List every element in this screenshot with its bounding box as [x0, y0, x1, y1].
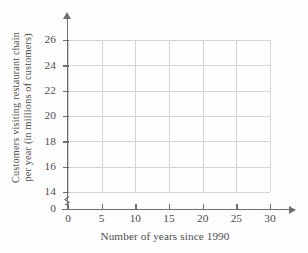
y-axis-tick — [63, 65, 69, 66]
y-axis-tick — [63, 116, 69, 117]
y-axis-origin-label: 0 — [34, 203, 56, 214]
gridline-vertical — [169, 40, 170, 192]
gridline-vertical — [236, 40, 237, 192]
gridline-vertical — [270, 40, 271, 192]
x-axis-tick-label: 15 — [157, 213, 181, 224]
y-axis-tick-label: 24 — [34, 60, 56, 71]
y-axis-tick-label: 22 — [34, 85, 56, 96]
x-axis-tick — [68, 204, 69, 210]
arrow-up-icon — [63, 12, 71, 19]
y-axis-tick — [63, 192, 69, 193]
y-axis-tick-label: 20 — [34, 110, 56, 121]
y-axis-tick-label: 18 — [34, 136, 56, 147]
y-axis-title-line-1: Customers visiting restaurant chain — [11, 32, 23, 183]
x-axis-title: Number of years since 1990 — [40, 230, 290, 242]
y-axis-tick-label: 16 — [34, 161, 56, 172]
x-axis-tick — [236, 204, 237, 210]
x-axis-tick — [169, 204, 170, 210]
x-axis-tick — [203, 204, 204, 210]
plot-bottom-edge — [68, 192, 270, 193]
x-axis-tick — [102, 204, 103, 210]
y-axis-line — [67, 18, 68, 210]
y-axis-title: Customers visiting restaurant chain per … — [0, 0, 46, 215]
x-axis-tick-label: 5 — [90, 213, 114, 224]
y-axis-tick-label: 26 — [34, 34, 56, 45]
y-axis-tick — [63, 167, 69, 168]
y-axis-tick — [63, 40, 69, 41]
x-axis-tick-label: 30 — [258, 213, 282, 224]
gridline-vertical — [102, 40, 103, 192]
x-axis-tick — [270, 204, 271, 210]
y-axis-tick — [63, 91, 69, 92]
gridline-vertical — [203, 40, 204, 192]
chart-figure: Customers visiting restaurant chain per … — [0, 0, 308, 253]
x-axis-tick-label: 10 — [123, 213, 147, 224]
arrow-right-icon — [289, 206, 296, 214]
x-axis-tick-label: 0 — [56, 213, 80, 224]
y-axis-tick — [63, 141, 69, 142]
x-axis-tick-label: 25 — [224, 213, 248, 224]
x-axis-tick-label: 20 — [191, 213, 215, 224]
x-axis-line — [62, 209, 290, 210]
gridline-vertical — [135, 40, 136, 192]
plot-area — [68, 40, 270, 192]
y-axis-tick-label: 14 — [34, 186, 56, 197]
x-axis-tick — [135, 204, 136, 210]
